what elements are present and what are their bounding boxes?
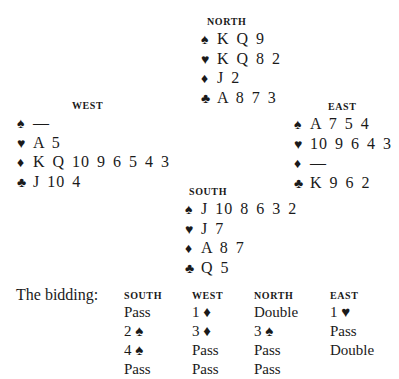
clubs-row: ♣A 8 7 3 [201, 88, 281, 108]
hearts-row: ♥J 7 [185, 219, 297, 239]
column-header: WEST [192, 288, 223, 303]
heart-icon: ♥ [294, 135, 310, 155]
cards: K Q 9 [217, 30, 265, 47]
bid-call: Pass [254, 341, 298, 360]
cards: Q 5 [201, 259, 230, 276]
heart-icon: ♥ [17, 134, 33, 154]
bid-call: 4 ♠ [124, 341, 162, 360]
hand-title: EAST [328, 101, 392, 112]
clubs-row: ♣K 9 6 2 [294, 173, 392, 193]
heart-icon: ♥ [201, 50, 217, 70]
hand-title: SOUTH [189, 186, 297, 197]
cards: 10 9 6 4 3 [310, 135, 392, 152]
column-header: EAST [330, 288, 374, 303]
bidding-label: The bidding: [16, 286, 98, 304]
south-hand: SOUTH ♠J 10 8 6 3 2 ♥J 7 ♦A 8 7 ♣Q 5 [185, 186, 297, 277]
diamond-icon: ♦ [185, 239, 201, 259]
cards: J 10 8 6 3 2 [201, 200, 297, 217]
east-hand: EAST ♠A 7 5 4 ♥10 9 6 4 3 ♦— ♣K 9 6 2 [294, 101, 392, 192]
bid-column-east: EAST 1 ♥ Pass Double [330, 288, 374, 360]
bid-call: 3 ♦ [192, 322, 223, 341]
clubs-row: ♣J 10 4 [17, 172, 170, 192]
cards: J 10 4 [33, 173, 81, 190]
bid-call: Pass [192, 341, 223, 360]
spade-icon: ♠ [201, 30, 217, 50]
spades-row: ♠— [17, 113, 170, 133]
spades-row: ♠A 7 5 4 [294, 114, 392, 134]
cards: K 9 6 2 [310, 174, 371, 191]
north-hand: NORTH ♠K Q 9 ♥K Q 8 2 ♦J 2 ♣A 8 7 3 [201, 16, 281, 107]
column-header: SOUTH [124, 288, 162, 303]
bid-call: 3 ♠ [254, 322, 298, 341]
diamonds-row: ♦A 8 7 [185, 238, 297, 258]
hand-title: WEST [72, 100, 170, 111]
cards: A 8 7 [201, 239, 245, 256]
diamond-icon: ♦ [17, 153, 33, 173]
cards: — [310, 154, 327, 171]
spades-row: ♠J 10 8 6 3 2 [185, 199, 297, 219]
spade-icon: ♠ [294, 115, 310, 135]
bid-call: Double [254, 303, 298, 322]
bid-call: Pass [124, 303, 162, 322]
bid-call: 1 ♥ [330, 303, 374, 322]
cards: J 2 [217, 69, 240, 86]
diamonds-row: ♦J 2 [201, 68, 281, 88]
bid-column-west: WEST 1 ♦ 3 ♦ Pass Pass [192, 288, 223, 379]
cards: — [33, 114, 50, 131]
bid-column-south: SOUTH Pass 2 ♠ 4 ♠ Pass [124, 288, 162, 379]
diamonds-row: ♦K Q 10 9 6 5 4 3 [17, 152, 170, 172]
clubs-row: ♣Q 5 [185, 258, 297, 278]
bid-call: Pass [330, 322, 374, 341]
hearts-row: ♥10 9 6 4 3 [294, 134, 392, 154]
spades-row: ♠K Q 9 [201, 29, 281, 49]
cards: A 8 7 3 [217, 89, 277, 106]
diamond-icon: ♦ [294, 154, 310, 174]
hearts-row: ♥K Q 8 2 [201, 49, 281, 69]
cards: K Q 10 9 6 5 4 3 [33, 153, 170, 170]
bid-call: Pass [192, 360, 223, 379]
cards: J 7 [201, 220, 224, 237]
bid-call: Double [330, 341, 374, 360]
club-icon: ♣ [185, 259, 201, 279]
heart-icon: ♥ [185, 220, 201, 240]
bid-call: 2 ♠ [124, 322, 162, 341]
bid-call: Pass [254, 360, 298, 379]
club-icon: ♣ [201, 89, 217, 109]
bid-column-north: NORTH Double 3 ♠ Pass Pass [254, 288, 298, 379]
column-header: NORTH [254, 288, 298, 303]
diamond-icon: ♦ [201, 69, 217, 89]
west-hand: WEST ♠— ♥A 5 ♦K Q 10 9 6 5 4 3 ♣J 10 4 [17, 100, 170, 191]
spade-icon: ♠ [17, 114, 33, 134]
club-icon: ♣ [17, 173, 33, 193]
hearts-row: ♥A 5 [17, 133, 170, 153]
bid-call: 1 ♦ [192, 303, 223, 322]
diamonds-row: ♦— [294, 153, 392, 173]
hand-title: NORTH [207, 16, 281, 27]
cards: K Q 8 2 [217, 50, 281, 67]
cards: A 5 [33, 134, 61, 151]
bid-call: Pass [124, 360, 162, 379]
cards: A 7 5 4 [310, 115, 370, 132]
spade-icon: ♠ [185, 200, 201, 220]
